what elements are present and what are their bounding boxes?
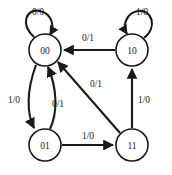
edge-label-s11-to-s00: 0/1 <box>90 79 102 89</box>
fsm-canvas: 00 10 01 11 0/0 1/0 0/1 1/0 0/1 1/0 0/1 … <box>0 0 172 175</box>
edge-s01-to-s00 <box>48 67 55 129</box>
state-node-01[interactable]: 01 <box>29 129 61 161</box>
edge-s11-to-s00 <box>58 62 120 133</box>
edge-s00-to-s01 <box>29 65 36 128</box>
state-diagram: 00 10 01 11 0/0 1/0 0/1 1/0 0/1 1/0 0/1 … <box>0 0 172 175</box>
state-label-00: 00 <box>40 46 50 56</box>
state-label-10: 10 <box>127 46 137 56</box>
state-node-10[interactable]: 10 <box>116 34 148 66</box>
edge-label-s01-to-s00: 0/1 <box>52 99 64 109</box>
edge-label-s10-self: 1/0 <box>136 7 148 17</box>
edge-label-s00-self: 0/0 <box>32 7 44 17</box>
state-label-11: 11 <box>127 141 136 151</box>
edge-label-s00-to-s01: 1/0 <box>8 95 20 105</box>
state-node-00[interactable]: 00 <box>29 34 61 66</box>
state-node-11[interactable]: 11 <box>116 129 148 161</box>
state-label-01: 01 <box>40 141 50 151</box>
edge-label-s11-to-s10: 1/0 <box>138 95 150 105</box>
edge-label-s10-to-s00: 0/1 <box>82 33 94 43</box>
edge-label-s01-to-s11: 1/0 <box>82 131 94 141</box>
